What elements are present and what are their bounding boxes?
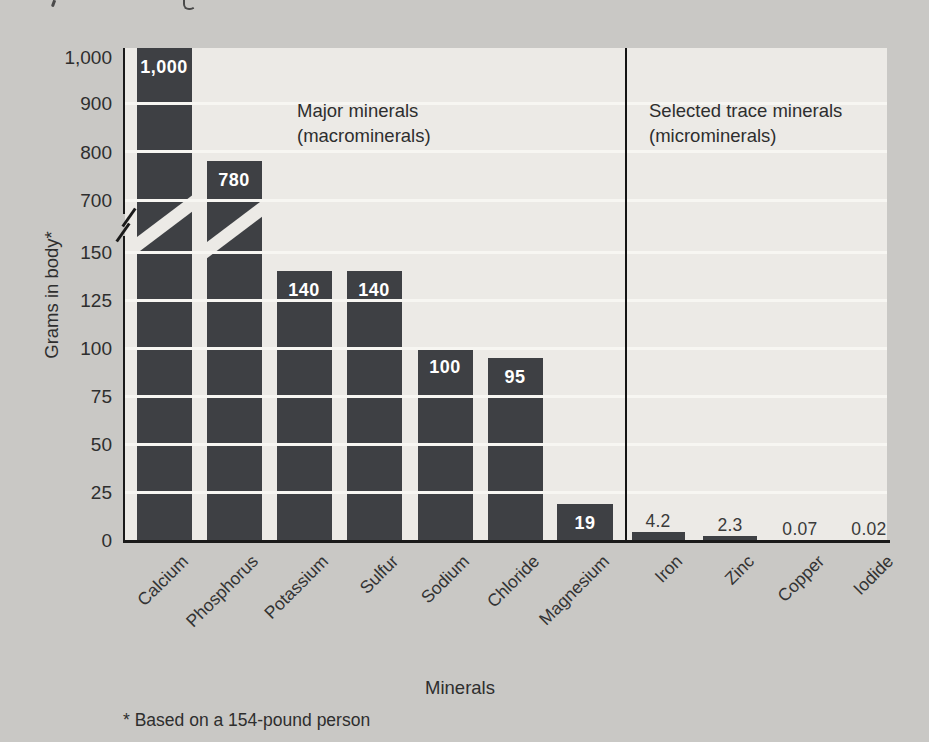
gridline-700	[125, 199, 887, 202]
category-label-phosphorus: Phosphorus	[128, 551, 264, 687]
category-label-chloride: Chloride	[409, 551, 545, 687]
x-axis-line	[124, 540, 890, 543]
gridline-50	[125, 443, 887, 446]
bar-sulfur	[347, 271, 402, 540]
cropped-text-fragment	[183, 0, 196, 10]
major-minerals-header-line1: Major minerals	[297, 98, 431, 123]
category-label-copper: Copper	[694, 551, 830, 687]
gridline-100	[125, 347, 887, 350]
major-minerals-header: Major minerals (macrominerals)	[297, 98, 431, 148]
y-tick-label-800: 800	[38, 142, 112, 164]
category-label-sodium: Sodium	[339, 551, 475, 687]
value-label-phosphorus: 780	[194, 170, 274, 191]
gridline-25	[125, 491, 887, 494]
y-axis-line-lower	[123, 236, 125, 543]
value-label-iodide: 0.02	[829, 519, 909, 540]
value-label-zinc: 2.3	[690, 515, 770, 536]
y-tick-label-1000: 1,000	[38, 47, 112, 69]
footnote: * Based on a 154-pound person	[123, 710, 370, 731]
category-label-iodide: Iodide	[763, 551, 899, 687]
value-label-magnesium: 19	[545, 513, 625, 534]
value-label-sodium: 100	[405, 357, 485, 378]
category-label-iron: Iron	[552, 551, 688, 687]
major-minerals-header-line2: (macrominerals)	[297, 123, 431, 148]
trace-minerals-header-line1: Selected trace minerals	[649, 98, 842, 123]
gridline-800	[125, 150, 887, 153]
mineral-bar-chart-figure: Grams in body* 0255075100125150700800900…	[0, 0, 929, 742]
bar-phosphorus	[207, 161, 262, 540]
gridline-125	[125, 299, 887, 302]
value-label-potassium: 140	[264, 280, 344, 301]
x-axis-title: Minerals	[395, 677, 525, 699]
category-label-calcium: Calcium	[58, 551, 194, 687]
y-tick-label-150: 150	[38, 242, 112, 264]
bar-potassium	[277, 271, 332, 540]
category-label-potassium: Potassium	[198, 551, 334, 687]
trace-minerals-header-line2: (microminerals)	[649, 123, 842, 148]
gridline-75	[125, 395, 887, 398]
y-tick-label-75: 75	[38, 386, 112, 408]
y-tick-label-25: 25	[38, 482, 112, 504]
y-tick-label-50: 50	[38, 434, 112, 456]
value-label-iron: 4.2	[618, 511, 698, 532]
category-label-zinc: Zinc	[624, 551, 760, 687]
y-tick-label-900: 900	[38, 93, 112, 115]
value-label-chloride: 95	[475, 367, 555, 388]
bar-iron	[632, 532, 685, 540]
value-label-sulfur: 140	[334, 280, 414, 301]
category-label-magnesium: Magnesium	[479, 551, 615, 687]
value-label-copper: 0.07	[760, 519, 840, 540]
value-label-calcium: 1,000	[124, 57, 204, 78]
group-divider-line	[625, 48, 627, 540]
bar-calcium	[137, 48, 192, 540]
y-tick-label-700: 700	[38, 190, 112, 212]
cropped-text-fragment	[51, 0, 56, 7]
y-tick-label-125: 125	[38, 290, 112, 312]
y-tick-label-0: 0	[38, 530, 112, 552]
trace-minerals-header: Selected trace minerals (microminerals)	[649, 98, 842, 148]
gridline-150	[125, 251, 887, 254]
category-label-sulfur: Sulfur	[268, 551, 404, 687]
y-tick-label-100: 100	[38, 338, 112, 360]
